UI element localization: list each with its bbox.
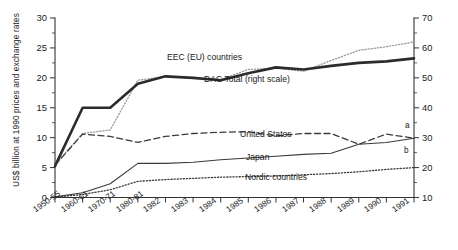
y-axis-left-tick-label: 25 xyxy=(37,42,47,53)
y-axis-right-tick-label: 60 xyxy=(422,42,432,53)
y-axis-right-tick-label: 50 xyxy=(422,72,432,83)
y-axis-right-tick-label: 30 xyxy=(422,132,432,143)
y-axis-right-tick-label: 10 xyxy=(422,192,432,203)
y-axis-left-tick-label: 20 xyxy=(37,72,47,83)
y-axis-left-tick-label: 10 xyxy=(37,132,47,143)
chart-container: US$ billion at 1990 prices and exchange … xyxy=(0,0,458,250)
note-a: a xyxy=(405,121,410,130)
y-axis-right-tick-label: 20 xyxy=(422,162,432,173)
series-label-eec-eu-countries: EEC (EU) countries xyxy=(167,52,242,62)
series-line-united-states xyxy=(55,132,414,166)
y-axis-right-tick-label: 70 xyxy=(422,12,432,23)
y-axis-left-tick-label: 5 xyxy=(42,162,47,173)
y-axis-left-tick-label: 15 xyxy=(37,102,47,113)
y-axis-left-title: US$ billion at 1990 prices and exchange … xyxy=(11,5,21,195)
note-b: b xyxy=(404,146,409,155)
series-label-united-states: United States xyxy=(240,129,292,139)
y-axis-right-tick-label: 40 xyxy=(422,102,432,113)
y-axis-left-tick-label: 30 xyxy=(37,12,47,23)
series-label-dac-total-right-scale: DAC Total (right scale) xyxy=(204,74,290,84)
series-label-nordic-countries: Nordic countries xyxy=(245,172,307,182)
series-line-japan xyxy=(55,138,414,197)
series-label-japan: Japan xyxy=(246,152,269,162)
